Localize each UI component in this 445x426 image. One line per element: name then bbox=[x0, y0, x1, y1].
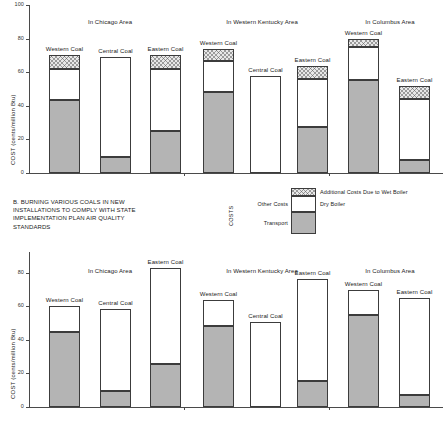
stacked-bar bbox=[348, 290, 379, 407]
bar-segment-transport bbox=[348, 80, 379, 173]
y-axis-tick-label: 60 bbox=[3, 303, 24, 309]
stacked-bar bbox=[297, 279, 328, 407]
bar-segment-other bbox=[49, 69, 80, 100]
bar-segment-transport bbox=[348, 315, 379, 407]
y-axis-tick bbox=[26, 273, 29, 274]
bar-segment-wet bbox=[203, 49, 234, 62]
bar-segment-other bbox=[297, 79, 328, 127]
y-axis-tick-label: 0 bbox=[3, 170, 24, 176]
stacked-bar bbox=[49, 55, 80, 173]
chart-group-label: In Chicago Area bbox=[88, 268, 132, 274]
y-axis-line bbox=[29, 252, 30, 407]
stacked-bar bbox=[203, 300, 234, 407]
chart-group-label: In Chicago Area bbox=[88, 19, 132, 25]
bar-segment-transport bbox=[203, 326, 234, 407]
chart-top-panel: 020406080100COST (cents/million Btu)In C… bbox=[0, 0, 445, 186]
stacked-bar bbox=[399, 298, 430, 407]
stacked-bar bbox=[150, 55, 181, 173]
bar-segment-transport bbox=[49, 100, 80, 173]
bar-segment-wet bbox=[49, 55, 80, 69]
legend-label-right: Dry Boiler bbox=[320, 201, 345, 207]
y-axis-line bbox=[29, 5, 30, 173]
bar-segment-other bbox=[100, 57, 131, 157]
bar-segment-transport bbox=[399, 160, 430, 173]
bar-segment-other bbox=[348, 47, 379, 80]
bar-category-label: Eastern Coal bbox=[397, 289, 433, 295]
bar-category-label: Western Coal bbox=[345, 30, 382, 36]
bar-segment-wet bbox=[150, 55, 181, 69]
y-axis-tick bbox=[26, 139, 29, 140]
y-axis-tick bbox=[26, 373, 29, 374]
stacked-bar bbox=[250, 76, 281, 173]
y-axis-tick bbox=[26, 72, 29, 73]
bar-category-label: Eastern Coal bbox=[148, 259, 184, 265]
chart-group-label: In Western Kentucky Area bbox=[226, 268, 298, 274]
chart-group-label: In Columbus Area bbox=[365, 19, 414, 25]
y-axis-tick bbox=[26, 39, 29, 40]
bar-category-label: Western Coal bbox=[200, 291, 237, 297]
y-axis-tick bbox=[26, 340, 29, 341]
stacked-bar bbox=[399, 86, 430, 173]
bar-segment-transport bbox=[100, 157, 131, 173]
y-axis-tick bbox=[26, 5, 29, 6]
bar-segment-other bbox=[250, 76, 281, 173]
y-axis-title: COST (cents/million Btu) bbox=[10, 328, 16, 399]
bar-segment-wet bbox=[297, 66, 328, 79]
x-axis-group-separator bbox=[329, 173, 330, 176]
stacked-bar bbox=[49, 306, 80, 407]
bar-segment-other bbox=[49, 306, 80, 332]
bar-category-label: Eastern Coal bbox=[295, 57, 331, 63]
stacked-bar bbox=[100, 57, 131, 173]
bar-segment-wet bbox=[399, 86, 430, 99]
x-axis-group-separator bbox=[184, 407, 185, 410]
bar-segment-other bbox=[203, 61, 234, 92]
stacked-bar bbox=[203, 49, 234, 173]
y-axis-tick bbox=[26, 407, 29, 408]
bar-category-label: Central Coal bbox=[248, 313, 283, 319]
legend-label-left: Other Costs bbox=[225, 201, 288, 207]
stacked-bar bbox=[250, 322, 281, 407]
bar-category-label: Eastern Coal bbox=[397, 77, 433, 83]
legend-sample-bar bbox=[291, 188, 316, 234]
bar-segment-other bbox=[399, 298, 430, 395]
stacked-bar bbox=[348, 39, 379, 173]
bar-category-label: Central Coal bbox=[98, 300, 133, 306]
bar-segment-transport bbox=[100, 391, 131, 407]
bar-segment-transport bbox=[203, 92, 234, 173]
legend-swatch-other bbox=[291, 196, 316, 212]
legend-costs-axis-label: COSTS bbox=[228, 206, 234, 226]
stacked-bar bbox=[100, 309, 131, 407]
bar-segment-transport bbox=[150, 364, 181, 407]
chart-group-label: In Columbus Area bbox=[365, 268, 414, 274]
bar-category-label: Central Coal bbox=[98, 48, 133, 54]
bar-category-label: Western Coal bbox=[46, 46, 83, 52]
bar-segment-other bbox=[100, 309, 131, 391]
chart-group-label: In Western Kentucky Area bbox=[226, 19, 298, 25]
bar-segment-wet bbox=[348, 39, 379, 47]
bar-category-label: Western Coal bbox=[345, 281, 382, 287]
bar-segment-transport bbox=[297, 127, 328, 173]
legend-block: B. BURNING VARIOUS COALS IN NEW INSTALLA… bbox=[0, 186, 445, 252]
bar-segment-other bbox=[399, 99, 430, 160]
y-axis-tick-label: 80 bbox=[3, 270, 24, 276]
y-axis-title: COST (cents/million Btu) bbox=[10, 94, 16, 165]
y-axis-tick-label: 0 bbox=[3, 404, 24, 410]
y-axis-tick-label: 60 bbox=[3, 69, 24, 75]
legend-swatch-wet bbox=[291, 188, 316, 196]
y-axis-tick bbox=[26, 173, 29, 174]
bar-segment-transport bbox=[49, 332, 80, 407]
stacked-bar bbox=[297, 66, 328, 173]
y-axis-tick-label: 100 bbox=[3, 2, 24, 8]
stacked-bar bbox=[150, 268, 181, 407]
legend-label-right: Additional Costs Due to Wet Boiler bbox=[320, 189, 408, 195]
chart-bottom-panel: 020406080COST (cents/million Btu)In Chic… bbox=[0, 252, 445, 426]
bar-category-label: Central Coal bbox=[248, 67, 283, 73]
x-axis-group-separator bbox=[329, 407, 330, 410]
bar-category-label: Eastern Coal bbox=[295, 270, 331, 276]
bar-segment-other bbox=[150, 69, 181, 131]
y-axis-tick bbox=[26, 106, 29, 107]
bar-category-label: Eastern Coal bbox=[148, 46, 184, 52]
panel-b-caption: B. BURNING VARIOUS COALS IN NEW INSTALLA… bbox=[13, 198, 163, 231]
legend-label-left: Transport bbox=[225, 220, 288, 226]
y-axis-tick bbox=[26, 306, 29, 307]
